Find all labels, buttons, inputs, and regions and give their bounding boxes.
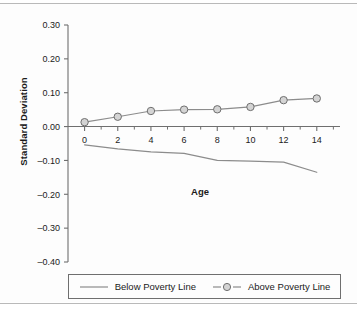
legend-line-marker-swatch bbox=[212, 281, 242, 293]
legend-label-below: Below Poverty Line bbox=[115, 281, 196, 292]
chart-figure: Standard Deviation Age 0.300.200.100.00–… bbox=[0, 4, 357, 302]
data-point bbox=[147, 107, 154, 114]
x-tick-label: 0 bbox=[82, 135, 87, 145]
legend-item-below[interactable]: Below Poverty Line bbox=[79, 281, 196, 293]
data-point bbox=[114, 113, 121, 120]
y-tick-label: –0.40 bbox=[37, 257, 60, 267]
x-tick-label: 12 bbox=[279, 135, 289, 145]
data-point bbox=[180, 106, 187, 113]
y-tick-label: 0.00 bbox=[42, 122, 60, 132]
legend-label-above: Above Poverty Line bbox=[248, 281, 330, 292]
y-tick-label: 0.20 bbox=[42, 54, 60, 64]
data-series bbox=[81, 95, 321, 173]
legend-item-above[interactable]: Above Poverty Line bbox=[212, 281, 330, 293]
data-point bbox=[313, 95, 320, 102]
series-line-0 bbox=[85, 145, 317, 172]
y-tick-label: –0.20 bbox=[37, 190, 60, 200]
y-tick-label: 0.10 bbox=[42, 88, 60, 98]
chart-legend: Below Poverty Line Above Poverty Line bbox=[68, 274, 341, 299]
x-tick-label: 6 bbox=[182, 135, 187, 145]
y-tick-label: –0.10 bbox=[37, 156, 60, 166]
page-bottom-rule bbox=[0, 303, 357, 304]
x-tick-label: 8 bbox=[215, 135, 220, 145]
axes: 0.300.200.100.00–0.10–0.20–0.30–0.400246… bbox=[37, 20, 340, 267]
data-point bbox=[81, 118, 88, 125]
x-tick-label: 2 bbox=[115, 135, 120, 145]
x-tick-label: 14 bbox=[312, 135, 322, 145]
plot-area: 0.300.200.100.00–0.10–0.20–0.30–0.400246… bbox=[0, 4, 357, 302]
data-point bbox=[280, 96, 287, 103]
data-point bbox=[214, 106, 221, 113]
data-point bbox=[247, 103, 254, 110]
y-tick-label: –0.30 bbox=[37, 223, 60, 233]
legend-line-swatch bbox=[79, 281, 109, 293]
x-tick-label: 10 bbox=[245, 135, 255, 145]
x-tick-label: 4 bbox=[148, 135, 153, 145]
y-tick-label: 0.30 bbox=[42, 20, 60, 30]
